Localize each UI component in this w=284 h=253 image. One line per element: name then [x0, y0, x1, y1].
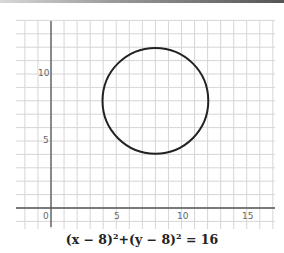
x-tick-15: 15 [242, 211, 253, 221]
y-tick-5: 5 [43, 135, 49, 145]
chart-plot: 0 5 10 15 5 10 [0, 0, 284, 253]
y-tick-10: 10 [38, 68, 50, 78]
x-tick-5: 5 [114, 211, 120, 221]
x-tick-0: 0 [43, 211, 49, 221]
eq-part: (x − 8) [66, 232, 113, 247]
x-tick-10: 10 [177, 211, 189, 221]
equation-caption: (x − 8)2+(y − 8)2 = 16 [0, 231, 284, 247]
grid-lines [16, 20, 275, 229]
eq-part: = 16 [182, 232, 219, 247]
eq-part: +(y − 8) [119, 232, 176, 247]
